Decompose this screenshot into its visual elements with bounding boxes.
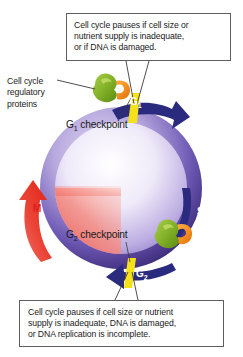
- g1-callout-box: Cell cycle pauses if cell size or nutrie…: [66, 13, 231, 61]
- g1-callout-line-2: nutrient supply is inadequate,: [74, 31, 230, 42]
- g1-callout-line-3: or if DNA is damaged.: [74, 42, 230, 53]
- g1-checkpoint-label: G1 checkpoint: [66, 119, 128, 133]
- g1-callout-line-1: Cell cycle pauses if cell size or: [74, 20, 230, 31]
- g2-callout-line-2: supply is inadequate, DNA is damaged,: [28, 318, 223, 329]
- g2-callout-line-3: or DNA replication is incomplete.: [28, 329, 223, 340]
- g2-checkpoint-label: G2 checkpoint: [66, 229, 128, 243]
- cyclin-complex-g1: [93, 74, 130, 103]
- regulatory-proteins-line-2: regulatory: [7, 87, 45, 98]
- regulatory-proteins-line-1: Cell cycle: [7, 76, 45, 87]
- regulatory-proteins-line-3: proteins: [7, 99, 45, 110]
- g2-callout-line-1: Cell cycle pauses if cell size or nutrie…: [28, 307, 223, 318]
- phase-label-g1: G1: [130, 96, 142, 109]
- regulatory-proteins-leader: [57, 80, 95, 89]
- phase-label-s: S: [197, 206, 204, 217]
- phase-label-g2: G2: [136, 268, 148, 281]
- cell-cycle-diagram: Cell cycle regulatory proteins G1 checkp…: [0, 0, 243, 357]
- g2-callout-box: Cell cycle pauses if cell size or nutrie…: [19, 300, 224, 347]
- regulatory-proteins-label: Cell cycle regulatory proteins: [7, 76, 45, 110]
- phase-label-m: M: [33, 203, 41, 214]
